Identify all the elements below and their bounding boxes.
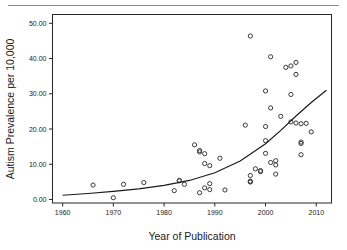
x-tick-label: 1970 (106, 209, 122, 216)
data-point (142, 180, 146, 184)
data-point (294, 72, 298, 76)
data-point (269, 160, 273, 164)
scatter-plot: 0.0010.0020.0030.0040.0050.00 1960197019… (0, 0, 347, 250)
data-point (223, 188, 227, 192)
data-point (274, 159, 278, 163)
y-tick-label: 40.00 (29, 55, 47, 62)
data-point (269, 106, 273, 110)
data-point (263, 124, 267, 128)
data-point (91, 183, 95, 187)
x-axis-title: Year of Publication (148, 230, 235, 242)
data-point (243, 123, 247, 127)
figure-container: 0.0010.0020.0030.0040.0050.00 1960197019… (0, 0, 347, 250)
data-point (253, 167, 257, 171)
data-point (248, 173, 252, 177)
x-tick-label: 1980 (156, 209, 172, 216)
data-point (182, 182, 186, 186)
y-tick-label: 50.00 (29, 20, 47, 27)
data-point (208, 182, 212, 186)
data-point (279, 114, 283, 118)
data-point (208, 164, 212, 168)
data-point (304, 121, 308, 125)
data-point (274, 172, 278, 176)
data-point (192, 143, 196, 147)
x-tick-label: 2010 (308, 209, 324, 216)
data-point (274, 163, 278, 167)
data-point (172, 189, 176, 193)
data-point (284, 65, 288, 69)
x-axis-ticks: 196019701980199020002010 (55, 203, 324, 216)
data-point (218, 156, 222, 160)
y-tick-label: 20.00 (29, 126, 47, 133)
data-point (263, 89, 267, 93)
x-tick-label: 2000 (258, 209, 274, 216)
data-point (299, 122, 303, 126)
header-rule (8, 5, 339, 6)
data-point (289, 64, 293, 68)
data-point (198, 191, 202, 195)
data-point (203, 152, 207, 156)
data-point (299, 153, 303, 157)
x-tick-label: 1960 (55, 209, 71, 216)
data-point (309, 130, 313, 134)
x-tick-label: 1990 (207, 209, 223, 216)
data-point (294, 60, 298, 64)
data-point (121, 182, 125, 186)
data-point (203, 161, 207, 165)
data-point (289, 92, 293, 96)
data-point (111, 196, 115, 200)
data-point (269, 55, 273, 59)
y-tick-label: 30.00 (29, 90, 47, 97)
data-point-group (91, 34, 313, 200)
y-tick-label: 10.00 (29, 161, 47, 168)
data-point (294, 121, 298, 125)
data-point (208, 188, 212, 192)
y-axis-title: Autism Prevalence per 10,000 (4, 39, 16, 180)
y-axis-ticks: 0.0010.0020.0030.0040.0050.00 (29, 20, 53, 203)
y-tick-label: 0.00 (33, 196, 47, 203)
data-point (203, 186, 207, 190)
data-point (263, 151, 267, 155)
data-point (248, 34, 252, 38)
plot-frame (53, 15, 332, 204)
